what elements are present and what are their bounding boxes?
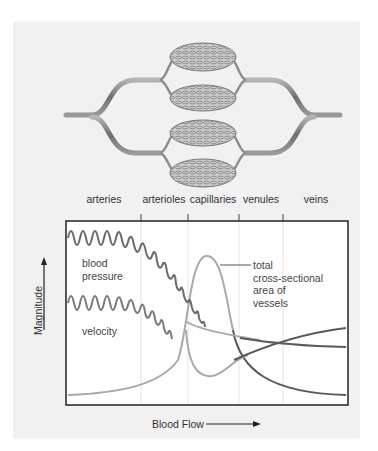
y-axis-label: Magnitude — [32, 286, 44, 335]
blood-pressure-label-line-2: pressure — [82, 270, 123, 283]
blood-pressure-label-line-1: blood — [82, 257, 123, 270]
x-axis-label: Blood Flow — [152, 418, 204, 430]
cross-section-label-line-2: cross-sectional — [253, 272, 323, 285]
region-ticks — [141, 214, 283, 221]
plot-area — [66, 221, 348, 405]
cross-section-label-line-3: area of — [253, 284, 323, 297]
cross-section-label-line-1: total — [253, 259, 323, 272]
cross-sectional-area-label: total cross-sectional area of vessels — [253, 259, 323, 309]
blood-pressure-label: blood pressure — [82, 257, 123, 282]
velocity-label: velocity — [82, 325, 117, 338]
magnitude-chart — [0, 0, 378, 451]
cross-section-label-line-4: vessels — [253, 297, 323, 310]
x-axis-arrow — [206, 421, 261, 427]
